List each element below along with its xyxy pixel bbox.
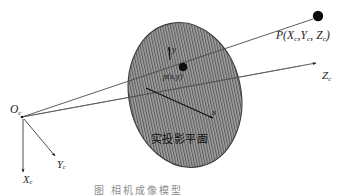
label-image-axis-x: x — [212, 108, 216, 117]
figure-container: P(Xc,Yc, Zc) Zc Oc Yc Xc y x p(x,y) 实投影平… — [0, 0, 355, 196]
label-projection-plane: 实投影平面 — [151, 134, 208, 145]
label-axis-zc: Zc — [322, 70, 331, 82]
projection-plane-ellipse — [115, 12, 255, 178]
label-image-point-p: p(x,y) — [163, 72, 183, 81]
label-origin-oc: Oc — [10, 104, 21, 117]
axis-yc — [24, 119, 55, 156]
label-image-axis-y: y — [172, 45, 176, 54]
world-point-P-marker — [313, 11, 323, 21]
label-point-P: P(Xc,Yc, Zc) — [276, 30, 330, 43]
label-axis-xc: Xc — [23, 175, 32, 186]
label-axis-yc: Yc — [57, 160, 66, 171]
image-point-p-marker — [179, 63, 188, 72]
figure-caption: 图 相机成像模型 — [94, 186, 183, 196]
